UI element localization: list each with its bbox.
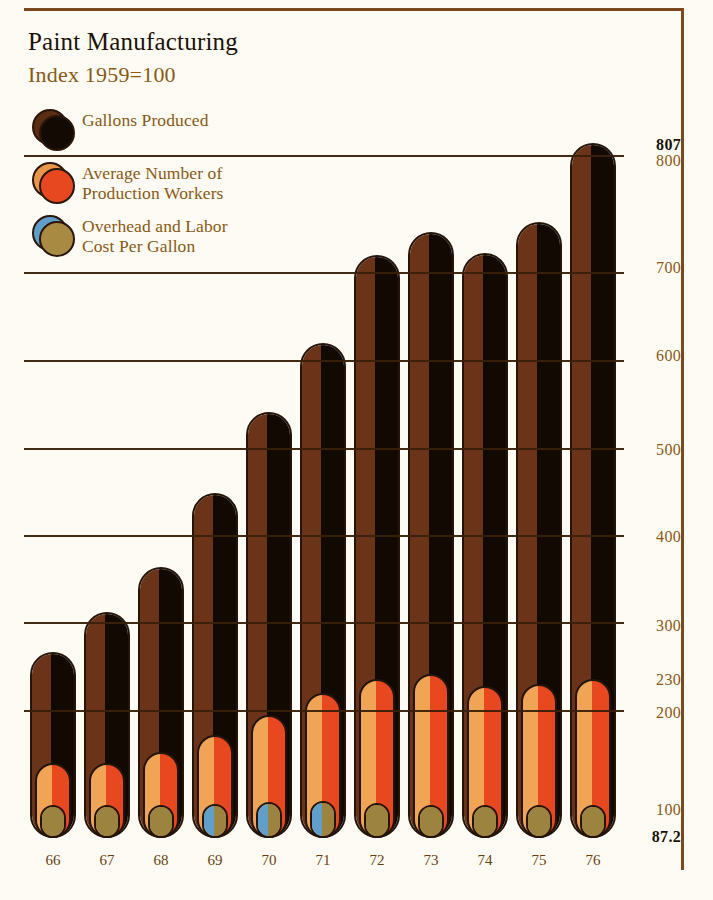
y-axis-tick-500: 500 xyxy=(611,441,681,459)
gridline-800 xyxy=(24,155,624,157)
bar-cost-69 xyxy=(202,804,228,838)
x-axis-label-75: 75 xyxy=(516,852,562,869)
bar-cost-71 xyxy=(310,801,336,838)
gridline-600 xyxy=(24,360,624,362)
bar-cost-68 xyxy=(148,805,174,838)
x-axis-label-76: 76 xyxy=(570,852,616,869)
x-axis-label-67: 67 xyxy=(84,852,130,869)
capsule-left-face xyxy=(204,806,214,836)
bar-cost-75 xyxy=(526,805,552,838)
bar-cost-73 xyxy=(418,805,444,838)
y-axis-tick-400: 400 xyxy=(611,528,681,546)
y-axis-tick-700: 700 xyxy=(611,259,681,277)
capsule-right-face xyxy=(376,805,388,836)
capsule-right-face xyxy=(160,807,172,836)
x-axis-label-72: 72 xyxy=(354,852,400,869)
x-axis-label-74: 74 xyxy=(462,852,508,869)
bar-cost-70 xyxy=(256,802,282,838)
bar-cost-72 xyxy=(364,803,390,838)
bar-cost-67 xyxy=(94,805,120,838)
capsule-right-face xyxy=(538,807,550,836)
capsule-left-face xyxy=(474,807,484,836)
gridline-500 xyxy=(24,448,624,450)
plot-area xyxy=(24,120,634,845)
capsule-left-face xyxy=(96,807,106,836)
bar-cost-74 xyxy=(472,805,498,838)
capsule-left-face xyxy=(258,804,268,836)
capsule-left-face xyxy=(42,807,52,836)
capsule-right-face xyxy=(484,807,496,836)
gridline-200 xyxy=(24,710,624,712)
frame-right-rule xyxy=(681,8,684,870)
page-subtitle: Index 1959=100 xyxy=(28,62,176,88)
bar-cost-76 xyxy=(580,805,606,838)
y-axis-tick-200: 200 xyxy=(611,704,681,722)
x-axis-label-68: 68 xyxy=(138,852,184,869)
gridline-400 xyxy=(24,535,624,537)
capsule-left-face xyxy=(366,805,376,836)
y-axis-tick-300: 300 xyxy=(611,617,681,635)
capsule-left-face xyxy=(420,807,430,836)
gridline-300 xyxy=(24,622,624,624)
bar-cost-66 xyxy=(40,805,66,838)
x-axis-label-70: 70 xyxy=(246,852,292,869)
capsule-left-face xyxy=(528,807,538,836)
capsule-left-face xyxy=(582,807,592,836)
capsule-right-face xyxy=(52,807,64,836)
y-axis-tick-230: 230 xyxy=(611,671,681,689)
y-axis-tick-87-2: 87.2 xyxy=(611,828,681,846)
capsule-right-face xyxy=(106,807,118,836)
y-axis-tick-600: 600 xyxy=(611,347,681,365)
gridline-700 xyxy=(24,272,624,274)
x-axis-label-69: 69 xyxy=(192,852,238,869)
x-axis-label-66: 66 xyxy=(30,852,76,869)
capsule-right-face xyxy=(322,803,334,836)
capsule-left-face xyxy=(312,803,322,836)
capsule-right-face xyxy=(592,807,604,836)
capsule-right-face xyxy=(214,806,226,836)
y-axis-tick-100: 100 xyxy=(611,801,681,819)
capsule-right-face xyxy=(430,807,442,836)
chart-page: Paint Manufacturing Index 1959=100 Gallo… xyxy=(0,0,713,900)
capsule-right-face xyxy=(268,804,280,836)
page-title: Paint Manufacturing xyxy=(28,28,238,56)
x-axis-label-71: 71 xyxy=(300,852,346,869)
capsule-left-face xyxy=(150,807,160,836)
x-axis-label-73: 73 xyxy=(408,852,454,869)
frame-top-rule xyxy=(24,8,684,11)
